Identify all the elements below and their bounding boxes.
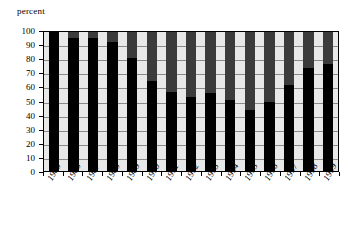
bar-segment-lower: [166, 92, 176, 171]
bar-slot: [181, 32, 201, 171]
bar-1991[interactable]: [166, 32, 176, 171]
bar-slot: [122, 32, 142, 171]
bar-segment-upper: [303, 32, 313, 68]
x-axis-tick-mark: [300, 172, 301, 176]
bar-slot: [299, 32, 319, 171]
bar-slot: [44, 32, 64, 171]
bar-segment-upper: [205, 32, 215, 93]
bar-segment-lower: [323, 64, 333, 171]
bar-1994[interactable]: [225, 32, 235, 171]
bar-segment-lower: [107, 42, 117, 171]
bar-1990[interactable]: [147, 32, 157, 171]
bar-segment-lower: [303, 68, 313, 171]
bar-segment-lower: [127, 58, 137, 171]
bar-slot: [83, 32, 103, 171]
bar-1992[interactable]: [186, 32, 196, 171]
bar-segment-lower: [68, 38, 78, 171]
y-axis-tick-label: 90: [26, 41, 35, 50]
y-axis-tick-label: 0: [31, 168, 36, 177]
bar-1998[interactable]: [303, 32, 313, 171]
x-axis-tick-mark: [102, 172, 103, 176]
bar-slot: [260, 32, 280, 171]
stacked-bar-chart: percent 1009080706050403020100 198519861…: [0, 0, 348, 230]
bar-segment-upper: [147, 32, 157, 81]
y-axis-tick-label: 70: [26, 69, 35, 78]
y-axis-title: percent: [17, 6, 45, 17]
y-axis-tick-label: 40: [26, 111, 35, 120]
bar-1999[interactable]: [323, 32, 333, 171]
bar-segment-upper: [166, 32, 176, 92]
x-axis-tick-mark: [63, 172, 64, 176]
y-axis-tick-label: 100: [22, 27, 36, 36]
bar-segment-upper: [225, 32, 235, 100]
bar-1993[interactable]: [205, 32, 215, 171]
bar-segment-lower: [205, 93, 215, 171]
bar-1987[interactable]: [88, 32, 98, 171]
bar-segment-lower: [186, 97, 196, 171]
bar-1996[interactable]: [264, 32, 274, 171]
x-axis-tick-mark: [43, 172, 44, 176]
bar-slot: [201, 32, 221, 171]
bar-slot: [142, 32, 162, 171]
x-axis-tick-mark: [319, 172, 320, 176]
x-axis-tick-mark: [221, 172, 222, 176]
bars-container: [44, 32, 338, 171]
y-axis-tick-label: 50: [26, 97, 35, 106]
y-axis-tick-label: 60: [26, 83, 35, 92]
bar-slot: [318, 32, 338, 171]
bar-slot: [64, 32, 84, 171]
bar-segment-upper: [186, 32, 196, 97]
y-axis-tick-label: 10: [26, 153, 35, 162]
y-axis-tick-label: 80: [26, 55, 35, 64]
bar-1988[interactable]: [107, 32, 117, 171]
x-axis-tick-mark: [82, 172, 83, 176]
bar-1995[interactable]: [245, 32, 255, 171]
x-axis-tick-mark: [142, 172, 143, 176]
x-axis-tick-mark: [260, 172, 261, 176]
bar-1986[interactable]: [68, 32, 78, 171]
plot-area: [43, 31, 339, 172]
bar-segment-lower: [225, 100, 235, 171]
y-axis-tick-label: 30: [26, 125, 35, 134]
bar-segment-lower: [284, 85, 294, 171]
bar-segment-lower: [49, 32, 59, 171]
bar-slot: [220, 32, 240, 171]
bar-1997[interactable]: [284, 32, 294, 171]
bar-segment-lower: [147, 81, 157, 171]
bar-slot: [279, 32, 299, 171]
x-axis-tick-mark: [240, 172, 241, 176]
bar-1989[interactable]: [127, 32, 137, 171]
bar-segment-upper: [245, 32, 255, 110]
bar-slot: [240, 32, 260, 171]
bar-slot: [162, 32, 182, 171]
bar-segment-upper: [127, 32, 137, 58]
bar-1985[interactable]: [49, 32, 59, 171]
y-axis-tick-label: 20: [26, 139, 35, 148]
bar-segment-upper: [264, 32, 274, 102]
x-axis-tick-mark: [201, 172, 202, 176]
y-axis: 1009080706050403020100: [0, 31, 43, 172]
bar-segment-upper: [323, 32, 333, 64]
bar-segment-lower: [88, 38, 98, 171]
x-axis-tick-mark: [181, 172, 182, 176]
bar-segment-upper: [284, 32, 294, 85]
bar-slot: [103, 32, 123, 171]
bar-segment-upper: [107, 32, 117, 42]
x-axis-tick-mark: [339, 172, 340, 176]
x-axis-tick-mark: [122, 172, 123, 176]
bar-segment-lower: [264, 102, 274, 172]
x-axis: 1985198619871988198919901991199219931994…: [43, 172, 339, 230]
x-axis-tick-mark: [161, 172, 162, 176]
x-axis-tick-mark: [280, 172, 281, 176]
